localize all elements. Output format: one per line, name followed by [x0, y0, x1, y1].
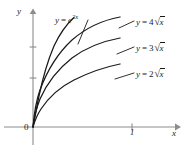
radicand: x — [160, 68, 165, 79]
label-equals: = — [140, 69, 149, 79]
leader-2sqrtx — [115, 73, 134, 79]
radicand: x — [160, 42, 165, 53]
radical-expression: √x — [154, 69, 165, 79]
y-axis-label: y — [17, 7, 21, 16]
x-axis — [4, 124, 181, 131]
curve-label-3sqrtx: y=3√x — [136, 43, 165, 53]
radical-expression: √x — [154, 43, 165, 53]
curve-2sqrtx — [33, 64, 120, 127]
leader-exp — [78, 20, 88, 44]
curve-exp — [33, 18, 74, 128]
leader-4sqrtx — [119, 21, 134, 28]
leader-3sqrtx — [117, 47, 134, 54]
x-axis-label: x — [172, 129, 176, 138]
curve-label-exponential: y=e2x — [55, 14, 78, 25]
label-equals: = — [59, 15, 68, 25]
curve-3sqrtx — [33, 38, 120, 127]
label-e-exponent: 2x — [72, 13, 78, 20]
label-equals: = — [140, 43, 149, 53]
radicand: x — [160, 16, 165, 27]
label-equals: = — [140, 17, 149, 27]
curve-label-2sqrtx: y=2√x — [136, 69, 165, 79]
radical-expression: √x — [154, 17, 165, 27]
origin-label: 0 — [24, 123, 29, 132]
x-tick-label-1: 1 — [130, 128, 134, 137]
curve-label-4sqrtx: y=4√x — [136, 17, 165, 27]
graph-figure: y x 0 1 y=e2x y=4√x y=3√x y=2√x — [0, 0, 183, 151]
curve-4sqrtx — [33, 17, 120, 127]
